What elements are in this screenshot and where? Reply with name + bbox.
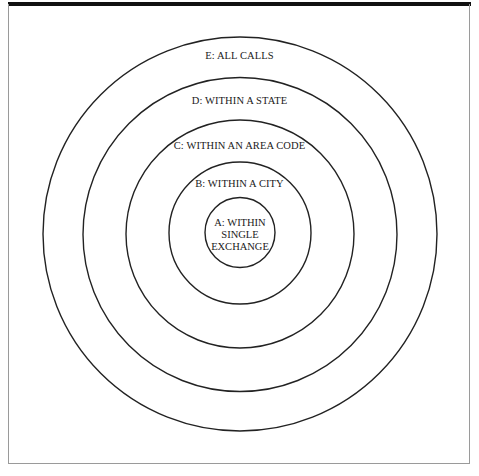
label-b-within-city: B: WITHIN A CITY	[0, 178, 479, 189]
label-a-line-2: SINGLE	[190, 229, 290, 241]
label-a-single-exchange: A: WITHIN SINGLE EXCHANGE	[190, 217, 290, 253]
label-a-line-1: A: WITHIN	[190, 217, 290, 229]
label-d-within-state: D: WITHIN A STATE	[0, 95, 479, 106]
label-a-line-3: EXCHANGE	[190, 241, 290, 253]
label-c-within-area-code: C: WITHIN AN AREA CODE	[0, 140, 479, 151]
label-e-all-calls: E: ALL CALLS	[0, 50, 479, 61]
